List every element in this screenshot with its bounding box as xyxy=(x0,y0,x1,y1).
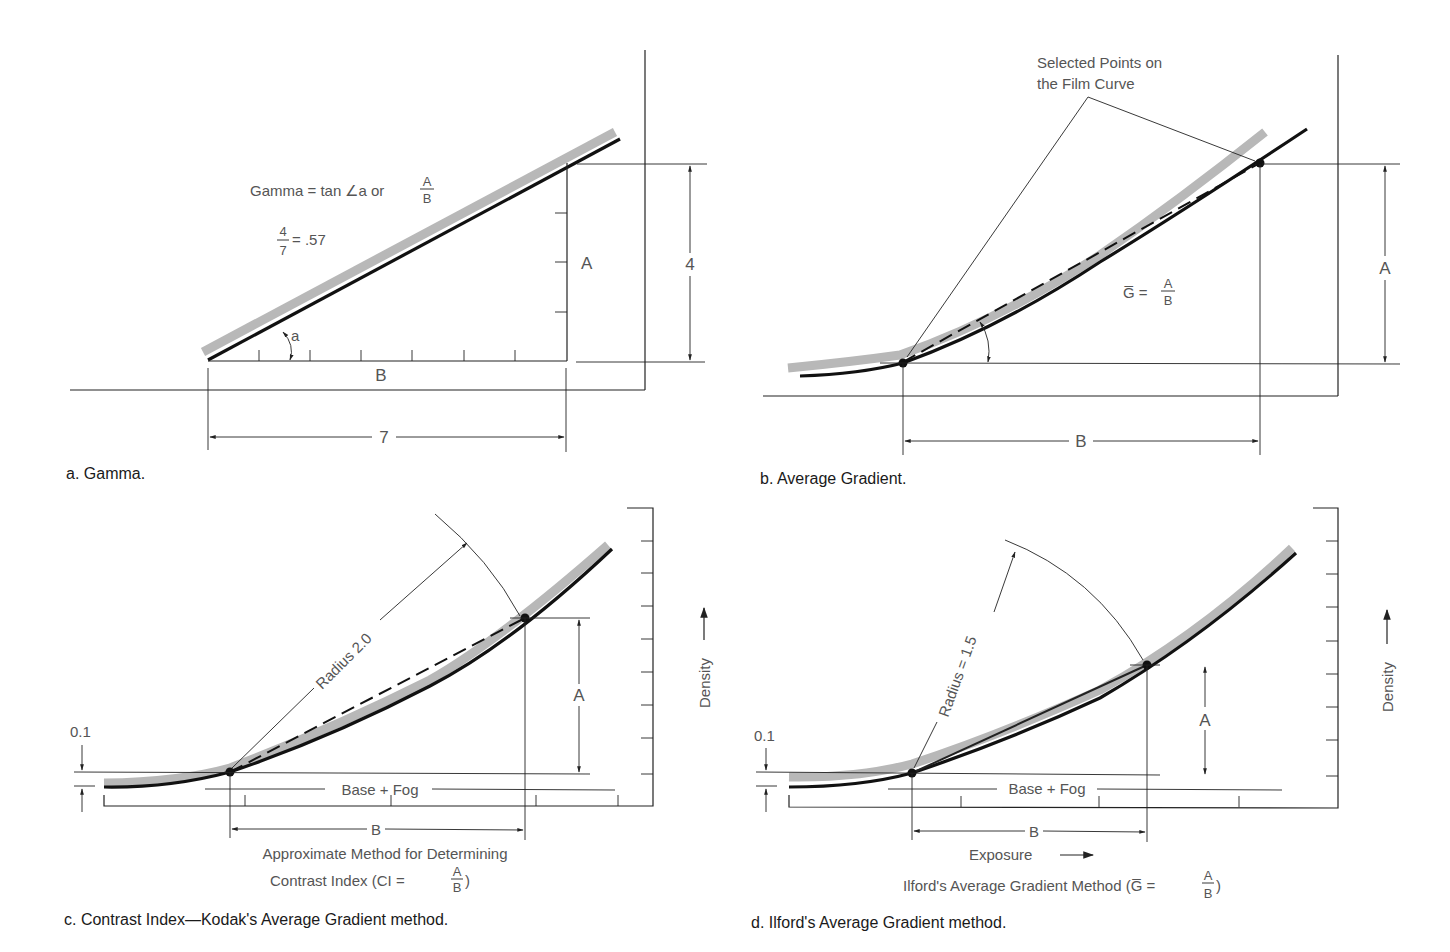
panel-a-curve xyxy=(208,139,620,360)
panel-c-subtitle-num: A xyxy=(453,864,462,879)
panel-b-low-level-line xyxy=(880,363,1400,364)
panel-c-low-level-line xyxy=(74,772,590,774)
panel-a-angle-label: a xyxy=(291,327,300,344)
panel-d-x-ticks xyxy=(961,796,1239,807)
panel-c-dim-b-right xyxy=(385,829,523,830)
panel-c-subtitle-close: ) xyxy=(465,872,470,889)
panel-c-y-ticks xyxy=(641,541,653,774)
panel-d-radius-line-upper xyxy=(994,552,1015,612)
panel-d-subtitle: Ilford's Average Gradient Method (G̅ = xyxy=(903,877,1156,894)
panel-b-curve xyxy=(800,129,1307,376)
panel-c-curve-band xyxy=(104,545,608,783)
panel-a-base-ticks xyxy=(259,350,515,361)
panel-c-offset-label: 0.1 xyxy=(70,723,91,740)
panel-c-radius-arc xyxy=(435,514,520,616)
panel-c-subtitle-line2: Contrast Index (CI = xyxy=(270,872,405,889)
panel-b-callout-line1: Selected Points on xyxy=(1037,54,1162,71)
panel-c-contrast-index: Radius 2.0 Base + Fog 0.1 A B Density Ap… xyxy=(64,508,713,928)
panel-c-axis-y-label: Density xyxy=(696,657,713,708)
panel-d-label-a: A xyxy=(1199,711,1211,730)
panel-a-caption: a. Gamma. xyxy=(66,465,145,482)
panel-c-axes xyxy=(104,508,653,806)
panel-a-gamma: a B A 4 7 Gamma = tan ∠a or A B 4 7 = .5… xyxy=(66,50,707,482)
panel-b-formula-den: B xyxy=(1164,293,1173,308)
panel-d-axis-x-label: Exposure xyxy=(969,846,1032,863)
panel-c-label-b: B xyxy=(371,821,381,838)
panel-b-callout-line2: the Film Curve xyxy=(1037,75,1135,92)
panel-a-formula-num: A xyxy=(423,174,432,189)
panel-c-x-ticks xyxy=(245,795,618,806)
panel-d-subtitle-close: ) xyxy=(1216,877,1221,894)
panel-b-average-gradient: Selected Points on the Film Curve A B G̅… xyxy=(760,54,1400,487)
panel-d-y-ticks xyxy=(1326,541,1338,776)
panel-d-axis-y-label: Density xyxy=(1379,661,1396,712)
panel-a-label-a: A xyxy=(581,254,593,273)
panel-d-subtitle-den: B xyxy=(1204,886,1213,901)
panel-a-example-result: = .57 xyxy=(292,231,326,248)
panel-c-subtitle-den: B xyxy=(453,880,462,895)
panel-c-subtitle-line1: Approximate Method for Determining xyxy=(262,845,507,862)
panel-d-subtitle-num: A xyxy=(1204,868,1213,883)
panel-c-caption: c. Contrast Index—Kodak's Average Gradie… xyxy=(64,911,448,928)
panel-b-caption: b. Average Gradient. xyxy=(760,470,906,487)
panel-a-dim-horizontal: 7 xyxy=(379,428,388,447)
panel-d-radius-arc xyxy=(1005,540,1143,660)
panel-a-curve-band xyxy=(203,132,615,352)
panel-c-curve xyxy=(104,549,612,787)
panel-d-label-b: B xyxy=(1029,823,1039,840)
panel-d-dim-b-right xyxy=(1043,831,1145,832)
panel-a-label-b: B xyxy=(375,366,386,385)
panel-a-formula-den: B xyxy=(423,191,432,206)
panel-a-example-num: 4 xyxy=(279,224,286,239)
panel-d-curve-band xyxy=(789,548,1292,777)
panel-d-radius-label: Radius = 1.5 xyxy=(935,634,980,719)
panel-c-base-fog-label: Base + Fog xyxy=(341,781,418,798)
panel-b-formula-num: A xyxy=(1164,276,1173,291)
panel-b-curve-band xyxy=(788,132,1265,368)
panel-c-radius-label: Radius 2.0 xyxy=(312,629,375,692)
panel-a-example-den: 7 xyxy=(279,243,286,258)
panel-c-radius-line-upper xyxy=(380,543,467,620)
panel-d-ilford-average-gradient: Radius = 1.5 Base + Fog 0.1 A B Exposure… xyxy=(751,508,1396,931)
panel-d-base-fog-line-right xyxy=(1097,789,1282,790)
panel-b-formula-lhs: G̅ = xyxy=(1123,284,1148,301)
panel-a-dim-vertical: 4 xyxy=(685,255,694,274)
panel-d-curve xyxy=(789,553,1296,787)
panel-d-axes xyxy=(789,508,1338,808)
panel-d-base-fog-label: Base + Fog xyxy=(1008,780,1085,797)
panel-d-offset-label: 0.1 xyxy=(754,727,775,744)
panel-a-rise-ticks xyxy=(555,213,567,312)
panel-b-label-b: B xyxy=(1075,432,1086,451)
panel-c-base-fog-line-right xyxy=(432,789,615,790)
panel-b-label-a: A xyxy=(1379,259,1391,278)
panel-c-secant-line xyxy=(230,618,525,772)
panel-d-caption: d. Ilford's Average Gradient method. xyxy=(751,914,1006,931)
panel-c-label-a: A xyxy=(573,686,585,705)
panel-b-callout-leader xyxy=(907,97,1255,357)
film-curve-diagram-figure: a B A 4 7 Gamma = tan ∠a or A B 4 7 = .5… xyxy=(0,0,1450,952)
panel-a-formula: Gamma = tan ∠a or xyxy=(250,182,384,199)
